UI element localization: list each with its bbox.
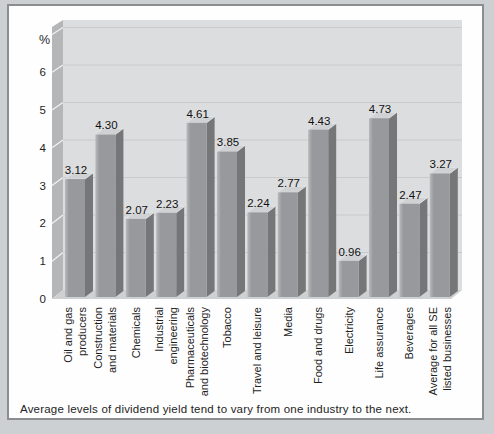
bar: 4.73 — [369, 103, 397, 297]
ytick-label: 6 — [40, 66, 46, 78]
figure-caption: Average levels of dividend yield tend to… — [20, 403, 470, 415]
bar-front-face — [278, 192, 298, 297]
percent-axis-label: % — [39, 33, 50, 47]
bar-value-label: 3.85 — [217, 136, 239, 148]
bar-side-face — [115, 128, 123, 297]
dividend-yield-bar-chart: 0123456%3.124.302.072.234.613.852.242.77… — [0, 0, 494, 434]
bar-value-label: 3.27 — [430, 158, 452, 170]
bar: 4.43 — [308, 115, 336, 297]
category-label: Industrialengineering — [153, 307, 179, 365]
bar-side-face — [146, 213, 154, 297]
bar-side-face — [267, 206, 275, 297]
bar-front-face — [308, 130, 328, 297]
bar-side-face — [207, 117, 215, 297]
bar: 3.12 — [65, 164, 93, 297]
category-label: Food and drugs — [312, 307, 324, 385]
category-label: Travel and leisure — [251, 307, 263, 394]
category-label: Beverages — [403, 307, 415, 360]
category-label: Media — [282, 306, 294, 337]
bar: 2.47 — [399, 189, 427, 297]
bar-value-label: 3.12 — [65, 164, 87, 176]
bar-front-face — [65, 179, 85, 297]
category-label-line: and biotechnology — [198, 307, 210, 397]
category-label-line: listed businesses — [441, 307, 453, 391]
bar-side-face — [85, 173, 93, 297]
bar-value-label: 4.30 — [95, 119, 117, 131]
bar-side-face — [450, 167, 458, 297]
bar-value-label: 4.73 — [369, 103, 391, 115]
category-label-line: Oil and gas — [62, 307, 74, 363]
category-label: Average for all SElisted businesses — [427, 307, 453, 396]
bar-side-face — [419, 198, 427, 297]
bar-value-label: 0.96 — [338, 246, 360, 258]
bar-front-face — [339, 261, 359, 297]
bar-value-label: 2.24 — [247, 197, 270, 209]
bar-value-label: 2.07 — [126, 204, 148, 216]
bar-front-face — [399, 204, 419, 297]
ytick-label: 2 — [40, 217, 46, 229]
bar: 3.27 — [430, 158, 458, 297]
bar-value-label: 2.77 — [278, 177, 300, 189]
category-label-line: Beverages — [403, 307, 415, 360]
ytick-label: 5 — [40, 104, 46, 116]
bar: 2.24 — [247, 197, 275, 297]
category-label: Pharmaceuticalsand biotechnology — [184, 307, 210, 397]
category-label-line: Chemicals — [130, 307, 142, 359]
bar: 4.30 — [95, 119, 123, 297]
ytick-label: 1 — [40, 255, 46, 267]
bar-side-face — [298, 186, 306, 297]
category-label-line: Tobacco — [221, 307, 233, 348]
category-label: Tobacco — [221, 307, 233, 348]
bar-front-face — [217, 151, 237, 297]
bar-side-face — [328, 124, 336, 297]
bar-front-face — [247, 212, 267, 297]
category-label-line: Electricity — [343, 307, 355, 355]
ytick-label: 0 — [40, 293, 46, 305]
category-label: Life assurance — [373, 307, 385, 379]
bar: 2.77 — [278, 177, 306, 297]
bar: 3.85 — [217, 136, 245, 297]
bar-front-face — [187, 123, 207, 297]
category-label-line: Life assurance — [373, 307, 385, 379]
category-label-line: Media — [282, 306, 294, 337]
bar: 4.61 — [186, 108, 214, 297]
bar-front-face — [95, 134, 115, 297]
category-label: Electricity — [343, 307, 355, 355]
bar-side-face — [389, 112, 397, 297]
bar-front-face — [156, 213, 176, 297]
bar-side-face — [176, 207, 184, 297]
category-label-line: Pharmaceuticals — [184, 307, 196, 389]
bar: 2.07 — [126, 204, 154, 297]
category-label-line: and materials — [106, 307, 118, 374]
category-label-line: Construction — [92, 307, 104, 369]
bar-side-face — [359, 255, 367, 297]
ytick-label: 4 — [40, 142, 47, 154]
bar-value-label: 4.43 — [308, 115, 330, 127]
bar-value-label: 2.47 — [399, 189, 421, 201]
bar-front-face — [126, 219, 146, 297]
bar-front-face — [369, 118, 389, 297]
category-label-line: engineering — [167, 307, 179, 365]
category-label: Constructionand materials — [92, 307, 118, 374]
bar-front-face — [430, 173, 450, 297]
category-label-line: producers — [76, 307, 88, 356]
bar: 2.23 — [156, 198, 184, 297]
category-label-line: Travel and leisure — [251, 307, 263, 394]
bar-value-label: 2.23 — [156, 198, 178, 210]
category-label-line: Industrial — [153, 307, 165, 352]
category-label: Oil and gasproducers — [62, 307, 88, 363]
bar-side-face — [237, 145, 245, 297]
bar-value-label: 4.61 — [186, 108, 208, 120]
category-label-line: Average for all SE — [427, 307, 439, 395]
category-label-line: Food and drugs — [312, 307, 324, 385]
category-label: Chemicals — [130, 307, 142, 359]
ytick-label: 3 — [40, 180, 46, 192]
